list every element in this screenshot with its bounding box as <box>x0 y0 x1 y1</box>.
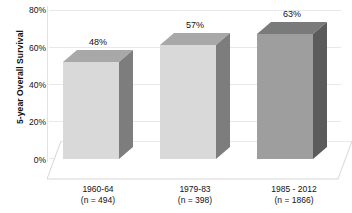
x-axis-category-label-2: 1979-83 (n = 398) <box>152 184 238 206</box>
y-axis-tick-label: 80% <box>6 5 46 15</box>
plot-area: 48% 57% 63% 1960-64 (n = 494) 1979-83 <box>47 0 352 213</box>
bar-column-1 <box>63 0 149 181</box>
category-count-1: (n = 494) <box>55 195 141 206</box>
bar-column-3 <box>257 0 343 181</box>
y-axis-tick-labels: 80% 60% 40% 20% 0% <box>0 0 46 213</box>
y-axis-tick-label: 40% <box>6 80 46 90</box>
category-count-3: (n = 1866) <box>247 195 341 206</box>
bar-3d-shape-1 <box>63 0 149 181</box>
bar-data-label-2: 57% <box>160 20 230 30</box>
x-axis-category-label-3: 1985 - 2012 (n = 1866) <box>247 184 341 206</box>
category-name-2: 1979-83 <box>152 184 238 195</box>
x-axis-category-label-1: 1960-64 (n = 494) <box>55 184 141 206</box>
chart-3d-bar: 5-year Overall Survival 80% 60% 40% 20% … <box>0 0 352 213</box>
y-axis-tick-label: 20% <box>6 117 46 127</box>
category-count-2: (n = 398) <box>152 195 238 206</box>
y-axis-tick-label: 60% <box>6 43 46 53</box>
category-name-1: 1960-64 <box>55 184 141 195</box>
bar-data-label-3: 63% <box>257 9 327 19</box>
category-name-3: 1985 - 2012 <box>247 184 341 195</box>
y-axis-tick-label: 0% <box>6 155 46 165</box>
bar-data-label-1: 48% <box>63 37 133 47</box>
bar-3d-shape-3 <box>257 0 343 181</box>
